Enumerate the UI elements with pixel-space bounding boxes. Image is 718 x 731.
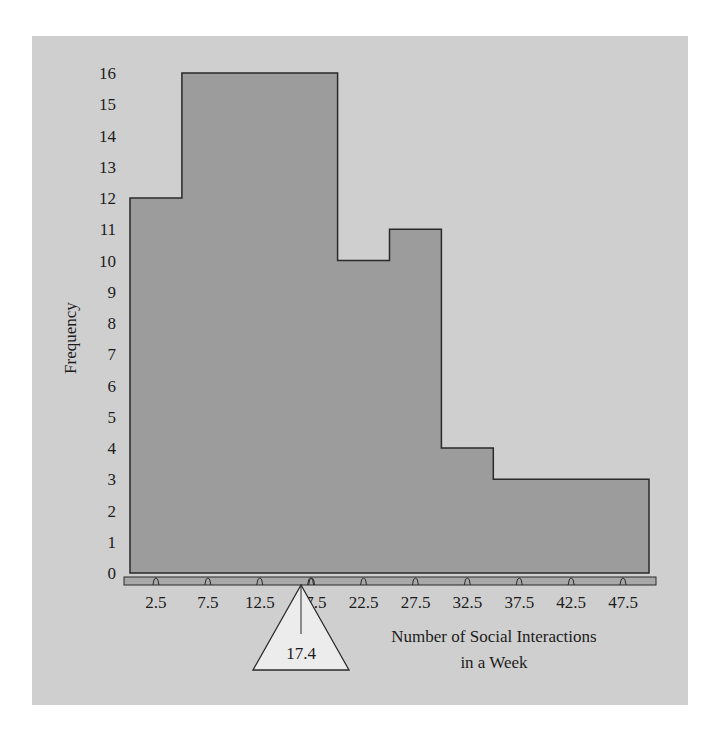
x-tick-label: 12.5 (245, 593, 275, 612)
x-tick-label: 7.5 (197, 593, 218, 612)
x-tick-label: 32.5 (453, 593, 483, 612)
y-tick-label: 10 (99, 252, 116, 271)
y-tick-label: 15 (99, 95, 116, 114)
y-tick-label: 2 (108, 502, 117, 521)
x-axis-bar (124, 577, 656, 585)
x-tick-label: 47.5 (608, 593, 638, 612)
y-tick-label: 13 (99, 158, 116, 177)
y-tick-label: 6 (108, 377, 117, 396)
y-tick-label: 4 (108, 439, 117, 458)
y-tick-label: 5 (108, 408, 117, 427)
y-tick-label: 14 (99, 127, 117, 146)
x-tick-label: 27.5 (401, 593, 431, 612)
x-tick-label: 37.5 (504, 593, 534, 612)
y-tick-label: 11 (100, 220, 116, 239)
y-tick-label: 1 (108, 533, 117, 552)
y-tick-label: 3 (108, 470, 117, 489)
y-tick-label: 7 (108, 345, 117, 364)
y-tick-label: 9 (108, 283, 117, 302)
y-tick-label: 12 (99, 189, 116, 208)
x-tick-label: 22.5 (349, 593, 379, 612)
x-axis-label-line-2: in a Week (460, 653, 528, 672)
histogram-chart: 012345678910111213141516 2.57.512.517.52… (0, 0, 718, 731)
histogram-bars (130, 73, 649, 573)
fulcrum-value-label: 17.4 (286, 644, 316, 663)
y-axis: 012345678910111213141516 (99, 64, 117, 583)
y-axis-label: Frequency (61, 302, 80, 374)
x-axis-label-line-1: Number of Social Interactions (391, 627, 596, 646)
y-tick-label: 0 (108, 564, 117, 583)
x-tick-label: 2.5 (145, 593, 166, 612)
y-tick-label: 8 (108, 314, 117, 333)
histogram-bars-shape (130, 73, 649, 573)
x-tick-label: 42.5 (556, 593, 586, 612)
y-tick-label: 16 (99, 64, 116, 83)
